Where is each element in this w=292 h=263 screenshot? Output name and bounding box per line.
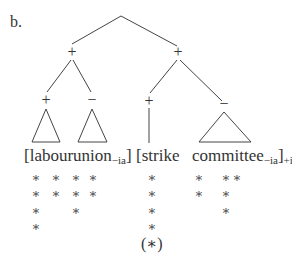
star-mark: ∗	[195, 187, 204, 200]
star-mark: ∗	[222, 187, 231, 200]
word-committee: committee−ia]+ia	[192, 147, 292, 164]
word-union: union−ia]	[73, 147, 132, 164]
star-mark: ∗	[72, 187, 81, 200]
bracket: ]	[278, 146, 284, 165]
tree-lines	[0, 0, 292, 263]
node-RL: +	[144, 93, 153, 109]
footnote-mark: (∗)	[141, 236, 163, 252]
star-mark: ∗	[233, 171, 242, 184]
star-mark: ∗	[52, 187, 61, 200]
word-text: [labour	[24, 146, 73, 165]
word-subscript: −ia	[264, 154, 278, 166]
node-LR: −	[87, 92, 96, 108]
node-RR: −	[219, 96, 228, 112]
star-mark: ∗	[148, 204, 157, 217]
star-mark: ∗	[32, 204, 41, 217]
star-mark: ∗	[32, 220, 41, 233]
bracket: ]	[126, 146, 132, 165]
bracket-subscript: +ia	[284, 154, 292, 166]
word-text: [strike	[136, 146, 179, 165]
star-mark: ∗	[72, 171, 81, 184]
word-labour: [labour	[24, 147, 73, 164]
word-text: committee	[192, 146, 264, 165]
word-strike: [strike	[136, 147, 179, 164]
star-mark: ∗	[32, 171, 41, 184]
node-L: +	[67, 44, 76, 60]
star-mark: ∗	[222, 204, 231, 217]
star-mark: ∗	[89, 187, 98, 200]
star-mark: ∗	[72, 204, 81, 217]
star-mark: ∗	[52, 171, 61, 184]
star-mark: ∗	[148, 187, 157, 200]
word-subscript: −ia	[112, 154, 126, 166]
word-text: union	[73, 146, 112, 165]
star-mark: ∗	[195, 171, 204, 184]
star-mark: ∗	[148, 171, 157, 184]
star-mark: ∗	[148, 220, 157, 233]
node-LL: +	[41, 92, 50, 108]
node-R: +	[173, 44, 182, 60]
star-mark: ∗	[222, 171, 231, 184]
star-mark: ∗	[89, 171, 98, 184]
star-mark: ∗	[32, 187, 41, 200]
